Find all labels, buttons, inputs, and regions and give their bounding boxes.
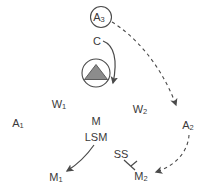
node-a2-label-sub: 2 — [190, 123, 194, 132]
node-m1-label-sub: 1 — [59, 175, 63, 184]
node-w2-label: W2 — [133, 103, 148, 116]
node-a1[interactable]: A1 — [12, 117, 24, 130]
node-w2-label-sub: 2 — [143, 107, 147, 116]
edge-a2-to-m2 — [156, 135, 189, 172]
node-m[interactable]: M — [91, 115, 100, 127]
node-w1-label-sub: 1 — [62, 102, 66, 111]
node-gland[interactable] — [82, 59, 110, 87]
node-a1-label: A1 — [12, 117, 24, 130]
edge-lsm-to-m1 — [67, 145, 94, 171]
edge-a3-to-a2-path — [112, 22, 176, 105]
node-m2-label-sub: 2 — [144, 174, 148, 183]
edge-ss-to-m2-line — [124, 160, 135, 170]
node-a3-label-sub: 3 — [101, 14, 105, 23]
node-lsm-label: LSM — [85, 131, 108, 143]
node-c-label: C — [93, 35, 101, 47]
diagram-svg: A3 C A1 W1 W2 M LSM — [0, 0, 200, 189]
node-ss[interactable]: SS — [114, 148, 129, 160]
node-a3[interactable]: A3 — [91, 7, 112, 28]
edge-lsm-to-m1-path — [67, 145, 94, 171]
edge-ss-to-m2 — [124, 160, 137, 170]
node-w2[interactable]: W2 — [133, 103, 148, 116]
diagram-canvas: A3 C A1 W1 W2 M LSM — [0, 0, 200, 189]
node-w2-label-main: W — [133, 103, 144, 115]
edge-a2-to-m2-path — [156, 135, 189, 172]
node-lsm[interactable]: LSM — [85, 131, 108, 143]
node-w1-label-main: W — [52, 98, 63, 110]
node-m2-label: M2 — [134, 170, 147, 183]
node-a2-label: A2 — [182, 119, 194, 132]
node-m1[interactable]: M1 — [49, 171, 62, 184]
node-a2[interactable]: A2 — [182, 119, 194, 132]
node-m-label: M — [91, 115, 100, 127]
node-c-label-main: C — [93, 35, 101, 47]
node-m-label-main: M — [91, 115, 100, 127]
node-w1-label: W1 — [52, 98, 67, 111]
node-ss-label: SS — [114, 148, 129, 160]
node-a1-label-sub: 1 — [20, 121, 24, 130]
node-m1-label: M1 — [49, 171, 62, 184]
node-lsm-label-main: LSM — [85, 131, 108, 143]
node-w1[interactable]: W1 — [52, 98, 67, 111]
node-m2-label-main: M — [134, 170, 143, 182]
edge-a3-to-a2 — [112, 22, 176, 105]
node-m1-label-main: M — [49, 171, 58, 183]
node-ss-label-main: SS — [114, 148, 129, 160]
edge-ss-to-m2-bar — [131, 161, 137, 166]
node-m2[interactable]: M2 — [134, 170, 147, 183]
node-c[interactable]: C — [93, 35, 101, 47]
